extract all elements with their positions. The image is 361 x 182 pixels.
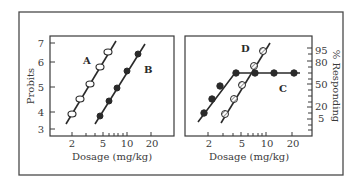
- left-ytick-label: 5: [38, 82, 44, 93]
- data-point-b: [97, 113, 103, 119]
- left-y-axis-title: Probits: [25, 68, 36, 104]
- data-point-c: [209, 96, 215, 102]
- data-point-d: [222, 111, 229, 118]
- data-point-a: [86, 81, 94, 87]
- data-point-d: [231, 96, 238, 103]
- data-point-b: [135, 51, 141, 57]
- data-point-a: [96, 64, 104, 70]
- right-ytick-label: 95: [315, 45, 328, 56]
- curve-label-a: A: [82, 55, 91, 66]
- left-xtick-label: 20: [146, 138, 159, 149]
- data-point-d: [239, 82, 246, 89]
- right-y-axis-title: % Responding: [331, 50, 342, 123]
- data-point-b: [106, 98, 112, 104]
- right-xtick-label: 20: [287, 138, 300, 149]
- right-xtick-label: 2: [206, 138, 212, 149]
- curve-label-b: B: [144, 64, 152, 75]
- data-point-a: [104, 49, 112, 55]
- right-xtick-label: 5: [239, 138, 245, 149]
- left-x-axis-title: Dosage (mg/kg): [72, 151, 152, 162]
- curve-label-c: C: [279, 83, 287, 94]
- left-xtick-label: 2: [69, 138, 75, 149]
- right-xticks: [208, 132, 292, 136]
- data-point-b: [124, 68, 130, 74]
- left-ytick-label: 7: [38, 38, 44, 49]
- data-point-c: [201, 110, 207, 116]
- data-point-c: [271, 70, 277, 76]
- left-xticks: [72, 132, 151, 136]
- left-xtick-label: 10: [121, 138, 134, 149]
- data-point-c: [233, 70, 239, 76]
- data-point-c: [291, 70, 297, 76]
- right-ytick-label: 80: [315, 57, 328, 68]
- data-point-b: [114, 85, 120, 91]
- dose-response-figure: 7 6 5 4 3 2 5 10 20 Dosage (mg/kg) Probi…: [0, 0, 361, 182]
- right-ytick-label: 50: [315, 79, 328, 90]
- right-ytick-label: 5: [318, 113, 324, 124]
- data-point-a: [68, 111, 76, 117]
- right-panel: 95 80 50 20 5 % Responding 2 5 10 20 Dos…: [185, 36, 342, 162]
- right-yticks: [307, 48, 312, 130]
- left-ytick-label: 4: [38, 107, 44, 118]
- left-panel: 7 6 5 4 3 2 5 10 20 Dosage (mg/kg) Probi…: [25, 36, 174, 162]
- right-ytick-label: 20: [315, 101, 328, 112]
- data-point-d: [251, 63, 258, 70]
- data-point-c: [217, 83, 223, 89]
- left-ytick-label: 6: [38, 57, 44, 68]
- right-x-axis-title: Dosage (mg/kg): [209, 151, 289, 162]
- curve-label-d: D: [241, 43, 250, 54]
- left-xtick-label: 5: [100, 138, 106, 149]
- left-ytick-label: 3: [38, 124, 44, 135]
- data-point-a: [76, 96, 84, 102]
- right-xtick-label: 10: [261, 138, 274, 149]
- data-point-d: [260, 48, 267, 55]
